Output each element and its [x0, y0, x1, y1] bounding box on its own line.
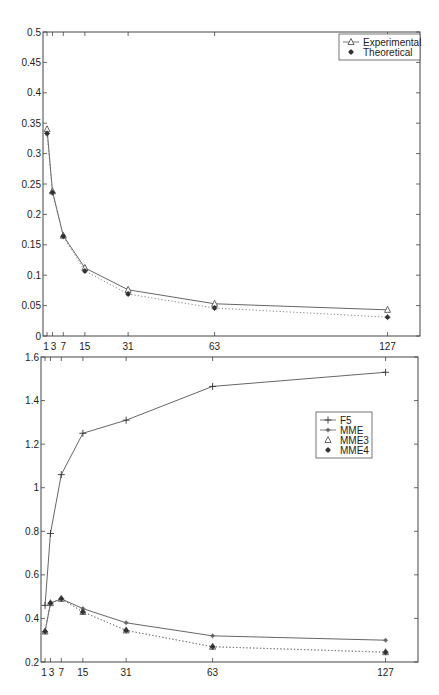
- legend: F5MMEMME3MME4: [316, 412, 372, 458]
- x-tick-label: 31: [123, 341, 135, 352]
- x-tick-label: 127: [379, 341, 396, 352]
- x-tick-label: 15: [79, 341, 91, 352]
- series-line-mme3: [45, 599, 386, 652]
- y-tick-label: 0.25: [22, 179, 42, 190]
- y-tick-label: 0.45: [22, 57, 42, 68]
- y-tick-label: 0.4: [27, 87, 41, 98]
- data-point-theoretical: [49, 190, 55, 196]
- x-tick-label: 7: [60, 341, 66, 352]
- x-tick-label: 15: [77, 667, 89, 678]
- bottom-chart: 0.20.40.60.811.21.41.6137153163127F5MMEM…: [25, 352, 418, 679]
- y-tick-label: 0.3: [27, 148, 41, 159]
- y-tick-label: 0.2: [27, 209, 41, 220]
- data-point-mme: [383, 638, 388, 643]
- y-tick-label: 0.35: [22, 118, 42, 129]
- data-point-f5: [123, 417, 130, 424]
- plot-frame: [41, 357, 418, 662]
- series-line-theoretical: [47, 134, 388, 318]
- legend-label-mme4: MME4: [340, 445, 369, 456]
- data-point-f5: [209, 383, 216, 390]
- x-tick-label: 63: [207, 667, 219, 678]
- x-tick-label: 1: [43, 341, 49, 352]
- y-tick-label: 0: [35, 331, 41, 342]
- top-chart: 00.050.10.150.20.250.30.350.40.450.51371…: [22, 27, 422, 353]
- x-tick-label: 7: [58, 667, 64, 678]
- data-point-f5: [47, 530, 54, 537]
- series-line-experimental: [47, 129, 388, 310]
- y-tick-label: 0.6: [25, 569, 39, 580]
- y-tick-label: 1: [33, 482, 39, 493]
- legend: ExperimentalTheoretical: [339, 34, 421, 60]
- y-tick-label: 0.1: [27, 270, 41, 281]
- series-line-mme: [45, 599, 386, 640]
- y-tick-label: 1.6: [25, 352, 39, 363]
- data-point-theoretical: [385, 314, 391, 320]
- y-tick-label: 0.8: [25, 526, 39, 537]
- data-point-mme: [210, 633, 215, 638]
- y-tick-label: 0.4: [25, 613, 39, 624]
- y-tick-label: 0.5: [27, 27, 41, 38]
- series-line-mme4: [45, 599, 386, 652]
- y-tick-label: 1.4: [25, 395, 39, 406]
- x-tick-label: 3: [51, 341, 57, 352]
- data-point-mme: [124, 620, 129, 625]
- plot-frame: [43, 32, 420, 336]
- data-point-f5: [79, 430, 86, 437]
- x-tick-label: 127: [377, 667, 394, 678]
- legend-label-theoretical: Theoretical: [363, 47, 412, 58]
- x-tick-label: 63: [209, 341, 221, 352]
- y-tick-label: 0.15: [22, 239, 42, 250]
- y-tick-label: 1.2: [25, 439, 39, 450]
- x-tick-label: 31: [121, 667, 133, 678]
- data-point-f5: [382, 369, 389, 376]
- y-tick-label: 0.05: [22, 300, 42, 311]
- y-tick-label: 0.2: [25, 657, 39, 668]
- figure: 00.050.10.150.20.250.30.350.40.450.51371…: [0, 0, 439, 695]
- x-tick-label: 1: [41, 667, 47, 678]
- series-line-f5: [45, 372, 386, 605]
- data-point-f5: [58, 471, 65, 478]
- x-tick-label: 3: [49, 667, 55, 678]
